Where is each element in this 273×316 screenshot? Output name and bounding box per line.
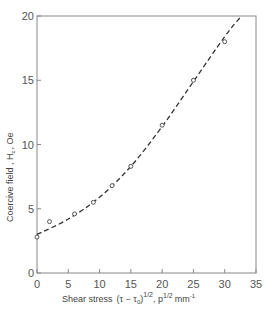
y-tick-label: 15 bbox=[22, 74, 34, 86]
y-tick-label: 0 bbox=[28, 267, 34, 279]
y-tick-label: 20 bbox=[22, 10, 34, 22]
chart-canvas: 05101520253035 05101520 Shear stress(τ −… bbox=[0, 0, 273, 316]
data-point-marker bbox=[110, 184, 114, 188]
data-point-marker bbox=[191, 78, 195, 82]
data-point-marker bbox=[129, 164, 133, 168]
x-tick-label: 25 bbox=[187, 278, 199, 290]
x-tick-label: 35 bbox=[250, 278, 262, 290]
y-tick-label: 10 bbox=[22, 139, 34, 151]
x-tick-label: 10 bbox=[93, 278, 105, 290]
x-tick-label: 0 bbox=[34, 278, 40, 290]
plot-frame bbox=[37, 16, 256, 273]
x-tick-label: 5 bbox=[65, 278, 71, 290]
data-points bbox=[35, 40, 227, 239]
data-point-marker bbox=[48, 220, 52, 224]
y-tick-label: 5 bbox=[28, 203, 34, 215]
fit-curve bbox=[37, 17, 240, 234]
data-point-marker bbox=[223, 40, 227, 44]
x-axis-label: Shear stress(τ − τ0)1/2, p1/2mm-1 bbox=[62, 291, 196, 305]
data-point-marker bbox=[160, 123, 164, 127]
x-tick-label: 30 bbox=[219, 278, 231, 290]
data-point-marker bbox=[73, 212, 77, 216]
x-tick-label: 15 bbox=[125, 278, 137, 290]
data-point-marker bbox=[91, 200, 95, 204]
data-point-marker bbox=[35, 235, 39, 239]
x-tick-label: 20 bbox=[156, 278, 168, 290]
y-axis-label: Coercive field , Hc, Oe bbox=[5, 132, 16, 222]
x-axis-ticks: 05101520253035 bbox=[34, 269, 262, 290]
